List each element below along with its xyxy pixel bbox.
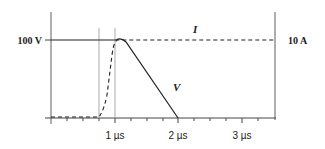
voltage-level-label: 100 V xyxy=(17,35,42,46)
x-tick-label-1us: 1 µs xyxy=(105,130,124,141)
x-tick-label-3us: 3 µs xyxy=(232,130,251,141)
current-level-label: 10 A xyxy=(288,35,308,46)
major-ticks xyxy=(115,118,242,123)
voltage-curve-label: V xyxy=(173,81,182,93)
current-curve xyxy=(51,40,275,117)
switching-waveform-diagram: 100 V 10 A I V 1 µs 2 µs 3 µs xyxy=(0,0,325,149)
current-curve-label: I xyxy=(192,23,198,35)
x-tick-label-2us: 2 µs xyxy=(168,130,187,141)
